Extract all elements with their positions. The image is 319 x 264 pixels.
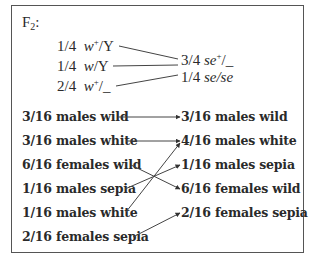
connector-lines: [0, 0, 319, 264]
